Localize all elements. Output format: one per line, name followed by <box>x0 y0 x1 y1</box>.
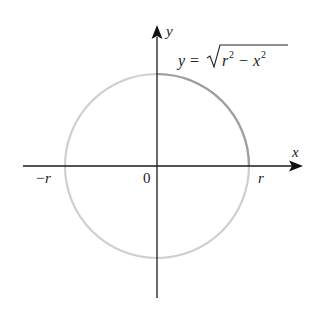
origin-label: 0 <box>143 170 151 186</box>
svg-text:−: − <box>239 52 248 69</box>
svg-text:x: x <box>252 52 260 69</box>
y-axis-label: y <box>164 23 173 39</box>
svg-text:=: = <box>190 52 199 69</box>
pos-r-label: r <box>258 170 264 186</box>
svg-text:r: r <box>222 52 229 69</box>
upper-semicircle-arc <box>157 74 249 166</box>
svg-text:2: 2 <box>261 49 266 60</box>
svg-text:2: 2 <box>229 49 234 60</box>
x-axis-label: x <box>291 144 299 160</box>
svg-text:y: y <box>176 52 186 70</box>
equation-label: y = r 2 − x 2 <box>176 45 288 70</box>
neg-r-label: −r <box>35 170 51 186</box>
y-axis-arrow-icon <box>152 25 163 39</box>
circle-diagram: y x −r 0 r y = r 2 − x 2 <box>0 0 323 314</box>
